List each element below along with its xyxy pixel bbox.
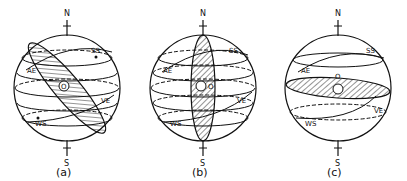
north-label: N (64, 9, 70, 18)
celestial-spheres-figure: O N S SS AE VE WS (a) (0, 0, 407, 181)
center-label: O (61, 83, 67, 91)
summer-solstice-point (95, 56, 98, 59)
label-ae: AE (163, 67, 172, 75)
label-ws: WS (170, 120, 182, 128)
north-label: N (200, 9, 206, 18)
label-ae: AE (301, 67, 310, 75)
label-ws: WS (305, 120, 317, 128)
observer-icon (196, 81, 206, 91)
caption-b: (b) (192, 166, 208, 179)
label-ve: VE (237, 97, 246, 105)
panel-c: O N S SS AE VE WS (c) (285, 9, 391, 179)
caption-c: (c) (327, 166, 342, 179)
label-ss: SS (91, 47, 100, 55)
caption-a: (a) (56, 166, 71, 179)
center-label: O (208, 83, 214, 91)
label-ae: AE (27, 67, 36, 75)
label-ve: VE (374, 107, 383, 115)
label-ss: SS (366, 47, 375, 55)
label-ve: VE (101, 97, 110, 105)
panel-a: O N S SS AE VE WS (a) (14, 9, 120, 179)
label-ss: SS (229, 47, 238, 55)
panel-b: O N S SS AE VE WS (b) (150, 9, 256, 179)
label-ws: WS (35, 120, 47, 128)
center-label: O (335, 73, 341, 81)
observer-icon (333, 84, 343, 94)
north-label: N (335, 9, 341, 18)
